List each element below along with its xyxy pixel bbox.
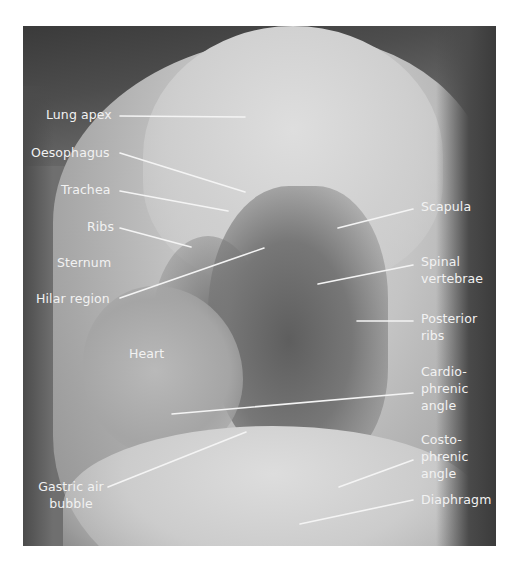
label-scapula: Scapula bbox=[421, 198, 471, 215]
label-posterior-ribs-line1: Posterior bbox=[421, 310, 477, 327]
leader-cardiophrenic-angle bbox=[172, 393, 413, 414]
leader-trachea bbox=[120, 191, 228, 211]
label-ribs: Ribs bbox=[87, 218, 114, 235]
label-oesophagus: Oesophagus bbox=[31, 144, 110, 161]
label-cardiophrenic-angle: Cardio- phrenic angle bbox=[421, 363, 468, 414]
label-gastric-air-bubble: Gastric air bubble bbox=[32, 478, 110, 512]
leader-spinal-vertebrae bbox=[318, 265, 413, 284]
leader-oesophagus bbox=[120, 153, 245, 192]
label-trachea: Trachea bbox=[61, 181, 110, 198]
label-heart: Heart bbox=[129, 345, 164, 362]
leader-scapula bbox=[338, 209, 413, 228]
leader-costophrenic-angle bbox=[339, 460, 413, 487]
label-hilar-region: Hilar region bbox=[36, 290, 110, 307]
label-spinal-vertebrae-line2: vertebrae bbox=[421, 270, 483, 287]
leader-hilar-region bbox=[120, 248, 264, 298]
label-posterior-ribs: Posterior ribs bbox=[421, 310, 477, 344]
label-lung-apex: Lung apex bbox=[46, 106, 112, 123]
label-spinal-vertebrae-line1: Spinal bbox=[421, 253, 483, 270]
leader-ribs bbox=[120, 228, 191, 247]
leader-gastric-air-bubble bbox=[108, 432, 246, 487]
label-gastric-air-bubble-line1: Gastric air bbox=[32, 478, 110, 495]
leader-lung-apex bbox=[120, 116, 245, 117]
label-cardiophrenic-line2: phrenic bbox=[421, 380, 468, 397]
label-posterior-ribs-line2: ribs bbox=[421, 327, 477, 344]
label-costophrenic-line2: phrenic bbox=[421, 448, 468, 465]
label-costophrenic-line3: angle bbox=[421, 465, 468, 482]
label-diaphragm: Diaphragm bbox=[421, 491, 491, 508]
label-costophrenic-line1: Costo- bbox=[421, 431, 468, 448]
label-costophrenic-angle: Costo- phrenic angle bbox=[421, 431, 468, 482]
label-cardiophrenic-line3: angle bbox=[421, 397, 468, 414]
leader-diaphragm bbox=[300, 500, 413, 524]
label-spinal-vertebrae: Spinal vertebrae bbox=[421, 253, 483, 287]
label-gastric-air-bubble-line2: bubble bbox=[32, 495, 110, 512]
label-sternum: Sternum bbox=[57, 254, 111, 271]
label-cardiophrenic-line1: Cardio- bbox=[421, 363, 468, 380]
